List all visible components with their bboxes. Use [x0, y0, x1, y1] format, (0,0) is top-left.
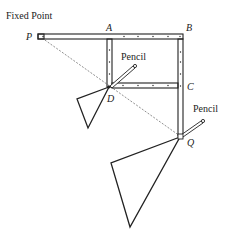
pencil-d-icon — [110, 64, 137, 88]
bar-d-c-holes — [122, 85, 168, 86]
label-a: A — [105, 22, 113, 33]
fixed-point-title: Fixed Point — [6, 10, 53, 21]
top-bar — [38, 34, 183, 39]
label-c: C — [187, 81, 194, 92]
bar-a-d — [107, 39, 112, 87]
label-q: Q — [187, 137, 195, 148]
bar-a-d-holes — [109, 49, 110, 74]
label-b: B — [186, 22, 192, 33]
top-bar-holes — [42, 36, 180, 37]
point-d-marker — [108, 86, 111, 89]
bar-b-q-holes — [180, 51, 181, 86]
pencil-label-d: Pencil — [121, 51, 146, 62]
point-q-marker — [178, 134, 183, 139]
pantograph-diagram: Fixed Point — [0, 0, 230, 243]
pencil-q-icon — [181, 119, 205, 137]
small-triangle — [77, 87, 109, 128]
label-d: D — [106, 93, 115, 104]
large-triangle — [111, 137, 180, 227]
bar-b-q — [178, 39, 183, 136]
pencil-label-q: Pencil — [193, 103, 218, 114]
label-p: P — [25, 31, 32, 42]
